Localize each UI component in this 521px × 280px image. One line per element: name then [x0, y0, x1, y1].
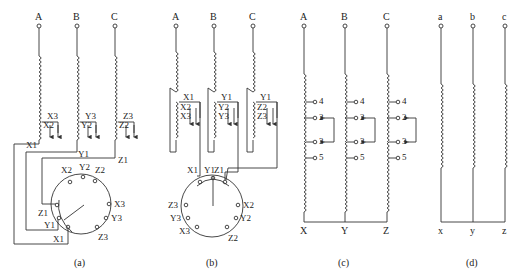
neutral-label: Z [383, 226, 389, 236]
neutral-label: z [502, 226, 506, 236]
terminal-label: B [210, 12, 217, 22]
tap-number: 5 [360, 153, 365, 162]
terminal-label: A [172, 12, 179, 22]
switch-label: Z1 [214, 166, 224, 175]
switch-label: Z1 [38, 209, 48, 218]
tap-label: Z2 [119, 121, 129, 130]
switch-label: X2 [243, 201, 254, 210]
tap-number: 4 [319, 97, 324, 106]
panel-a [14, 24, 134, 244]
neutral-label: y [470, 226, 475, 236]
tap-number: 4 [402, 97, 407, 106]
tap-header-label: X1 [183, 93, 194, 102]
terminal-c-icon [113, 24, 117, 28]
transformer-tap-changer-diagram: A B C X3 Y3 Z3 X2 Y2 Z2 X1 Y1 Z1 X2 Y2 Z… [0, 0, 521, 280]
terminal-label: C [111, 12, 118, 22]
tap-number: 2 [360, 113, 365, 122]
caption-b: (b) [206, 258, 218, 268]
switch-label: X1 [187, 166, 198, 175]
terminal-label: B [73, 12, 80, 22]
tap-label: Y3 [218, 112, 229, 121]
caption-d: (d) [466, 258, 478, 268]
diagram-lines [0, 0, 521, 280]
caption-a: (a) [74, 258, 85, 268]
switch-label: Z2 [228, 234, 238, 243]
rotary-switch-b [181, 175, 243, 237]
terminal-label: B [341, 12, 348, 22]
switch-label: Z3 [168, 201, 178, 210]
terminal-label: b [470, 12, 475, 22]
terminal-label: a [438, 12, 442, 22]
tap-label: X3 [180, 112, 191, 121]
terminal-label: C [383, 12, 390, 22]
switch-label: X1 [53, 235, 64, 244]
tap-number: 2 [402, 113, 407, 122]
tap-label: Z3 [257, 112, 267, 121]
tap-number: 4 [360, 97, 365, 106]
terminal-label: C [249, 12, 256, 22]
lead-label: X1 [26, 141, 37, 150]
tap-header-label: Y1 [260, 93, 271, 102]
terminal-label: c [502, 12, 506, 22]
tap-number: 2 [319, 113, 324, 122]
panel-b [170, 24, 277, 237]
switch-label: Y2 [79, 163, 90, 172]
neutral-label: x [438, 226, 443, 236]
tap-label: X2 [43, 121, 54, 130]
neutral-label: Y [341, 226, 348, 236]
switch-label: Z2 [95, 166, 105, 175]
switch-label: Y2 [240, 214, 251, 223]
switch-label: Y3 [170, 214, 181, 223]
terminal-a-icon [37, 24, 41, 28]
tap-number: 3 [360, 137, 365, 146]
switch-label: X3 [114, 200, 125, 209]
terminal-label: A [300, 12, 307, 22]
rotary-switch-a [51, 174, 111, 234]
switch-label: Y1 [44, 221, 55, 230]
caption-c: (c) [338, 258, 349, 268]
lead-label: Z1 [118, 156, 128, 165]
panel-d [439, 24, 507, 222]
panel-c [302, 24, 416, 222]
tap-number: 5 [319, 153, 324, 162]
tap-label: Y2 [81, 121, 92, 130]
tap-number: 3 [402, 137, 407, 146]
switch-label: X2 [61, 166, 72, 175]
terminal-label: A [35, 12, 42, 22]
lead-label: Y1 [78, 150, 89, 159]
switch-label: Y3 [111, 214, 122, 223]
tap-number: 3 [319, 137, 324, 146]
terminal-b-icon [75, 24, 79, 28]
switch-label: Z3 [98, 233, 108, 242]
tap-header-label: Y1 [221, 93, 232, 102]
neutral-label: X [300, 226, 307, 236]
switch-label: X3 [179, 227, 190, 236]
tap-number: 5 [402, 153, 407, 162]
